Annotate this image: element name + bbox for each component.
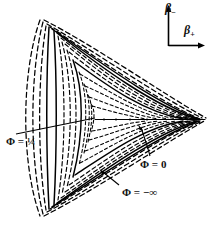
annotation-label-phi-quarter: Φ = ¼ (6, 136, 35, 147)
axis-label-beta-minus: β− (165, 2, 176, 17)
dashed-contour-outer-top (44, 20, 206, 118)
axis-tick-dot (103, 118, 105, 120)
axis-label-beta-plus: β+ (184, 24, 195, 39)
right-arrow-icon (198, 43, 205, 49)
potential-contour-figure: Φ = ¼ Φ = 0 Φ = −∞ β− β+ (0, 0, 215, 225)
solid-contour-separatrix-left (47, 27, 49, 209)
dashed-contour-in3-bottom (89, 121, 158, 140)
dashed-contour-mid-group (58, 36, 195, 200)
axis-label-beta-minus-subscript: − (171, 8, 176, 17)
solid-contour-inner-left (54, 31, 56, 205)
dashed-contour-mid2-left (62, 42, 70, 194)
contour-curves (26, 20, 206, 216)
annotation-label-phi-neg-infinity: Φ = −∞ (122, 187, 157, 198)
dashed-contour-outer-bottom (44, 120, 206, 216)
dashed-contour-in4-bottom (92, 121, 146, 131)
dashed-contour-ring2-left (33, 22, 43, 214)
dashed-contour-mid3-left (67, 50, 76, 187)
dashed-contour-in4-top (92, 106, 146, 119)
contour-plot-canvas (0, 0, 215, 225)
dashed-contour-mid3-bottom (69, 121, 188, 185)
dashed-contour-mid1-left (58, 36, 64, 200)
axis-tick-dot (115, 118, 117, 120)
axis-tick-dot (146, 118, 148, 120)
dashed-contour-ring3-left (40, 26, 46, 210)
solid-contour-cusp-left (73, 60, 81, 177)
annotation-label-phi-zero: Φ = 0 (140, 159, 166, 170)
axis-tick-dot (129, 118, 131, 120)
axis-label-beta-plus-subscript: + (190, 30, 195, 39)
